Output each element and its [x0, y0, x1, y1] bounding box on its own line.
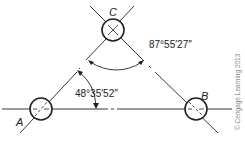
traverse-diagram: C A B 87°55′27″ 48°35′52″ © Cengage Lear… — [0, 0, 245, 142]
station-c-label: C — [109, 6, 117, 18]
angle-c-value: 87°55′27″ — [149, 39, 192, 50]
copyright-watermark: © Cengage Learning 2013 — [234, 53, 242, 130]
angle-arc-c — [88, 60, 144, 70]
angle-a-value: 48°35′52″ — [75, 88, 118, 99]
station-b-label: B — [201, 90, 208, 102]
station-a-marker — [30, 98, 52, 120]
station-c-marker — [102, 19, 124, 41]
station-a-label: A — [15, 116, 23, 128]
